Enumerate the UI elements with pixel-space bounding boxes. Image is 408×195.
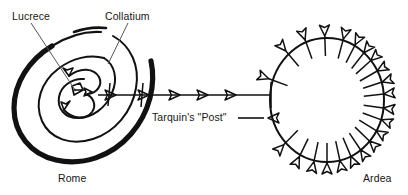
connector-tick-1 — [108, 83, 110, 106]
leader-line-collatium — [108, 23, 128, 64]
label-ardea: Ardea — [363, 172, 392, 184]
rome-core-glyph-arrowhead — [84, 88, 92, 96]
rome-core-arrowhead-lower — [61, 101, 70, 110]
rome-core-arrow-lower — [64, 94, 94, 117]
ardea-inward-arrows — [257, 25, 395, 174]
diagram-figure: Lucrece Collatium Tarquin's "Post" Rome … — [0, 0, 408, 195]
diagram-canvas — [0, 0, 408, 195]
label-lucrece: Lucrece — [12, 10, 50, 22]
connector-tick-2 — [141, 83, 143, 107]
rome-spiral-outer-thin — [52, 32, 101, 46]
label-tarquins-post: Tarquin's "Post" — [152, 111, 227, 123]
rome-spiral-inner — [59, 58, 115, 118]
label-collatium: Collatium — [105, 10, 150, 22]
leader-dot-lucrece — [74, 89, 77, 92]
label-rome: Rome — [58, 172, 86, 184]
rome-spiral-mid — [39, 36, 137, 142]
ardea-circle-group — [257, 25, 395, 174]
